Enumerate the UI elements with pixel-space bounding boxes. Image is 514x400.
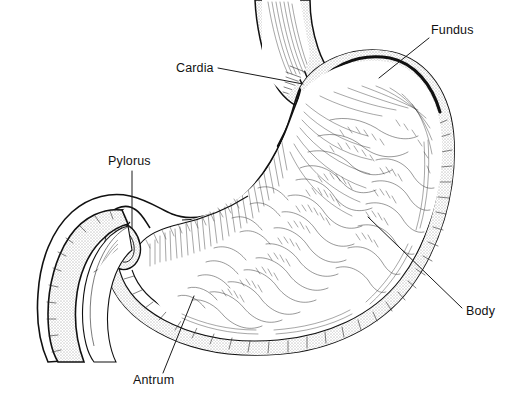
label-body: Body — [466, 304, 496, 318]
label-cardia: Cardia — [176, 61, 214, 75]
stomach-illustration: Fundus Cardia Pylorus Antrum Body — [0, 0, 514, 400]
label-antrum: Antrum — [133, 373, 174, 387]
label-pylorus: Pylorus — [108, 154, 151, 168]
label-fundus: Fundus — [431, 23, 474, 37]
stomach-diagram: Fundus Cardia Pylorus Antrum Body — [0, 0, 514, 400]
